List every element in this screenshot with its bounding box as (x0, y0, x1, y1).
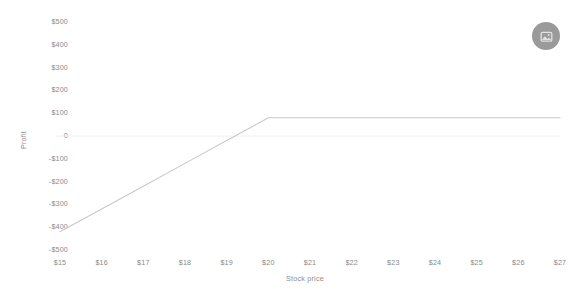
image-export-icon (539, 29, 554, 44)
export-image-button[interactable] (532, 22, 560, 50)
plot-area (0, 0, 576, 295)
profit-line (60, 118, 560, 232)
chart-container: $500$400$300$200$1000-$100-$200-$300-$40… (0, 0, 576, 295)
plot-svg (0, 0, 576, 295)
